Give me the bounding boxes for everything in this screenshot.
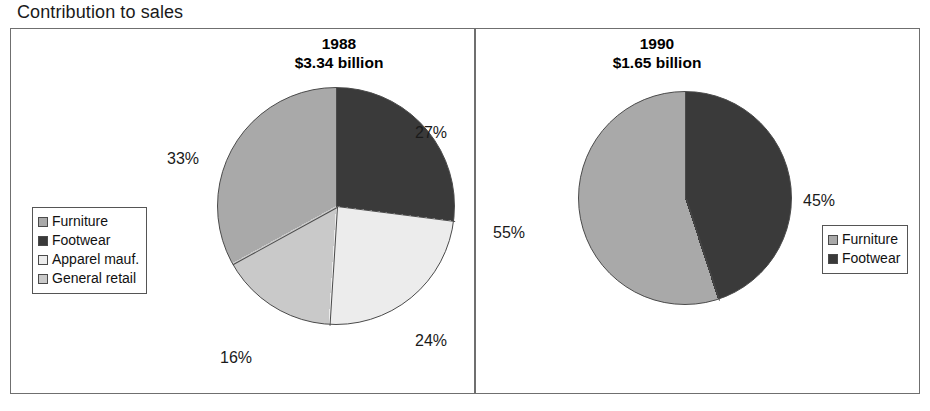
- legend-item[interactable]: Footwear: [38, 231, 139, 250]
- legend-swatch-icon: [38, 255, 48, 265]
- legend-item-label: Footwear: [52, 231, 110, 250]
- pie-slice-divider: [686, 199, 720, 301]
- chart-frame: 1988 $3.34 billion 27% 24% 16% 33% Furni…: [10, 28, 920, 394]
- legend-item[interactable]: Footwear: [828, 249, 900, 268]
- legend-swatch-icon: [828, 254, 838, 264]
- pie-value-1990: $1.65 billion: [557, 53, 757, 72]
- pie-label-footwear-1990: 45%: [803, 192, 835, 210]
- pie-label-general-retail-1988: 16%: [220, 349, 252, 367]
- legend-item[interactable]: General retail: [38, 269, 139, 288]
- legend-item-label: Furniture: [842, 230, 898, 249]
- legend-swatch-icon: [38, 217, 48, 227]
- legend-item[interactable]: Apparel mauf.: [38, 250, 139, 269]
- pie-heading-1990: 1990 $1.65 billion: [557, 34, 757, 72]
- legend-item[interactable]: Furniture: [828, 230, 900, 249]
- pie-year-1988: 1988: [249, 34, 429, 53]
- legend-1988: Furniture Footwear Apparel mauf. General…: [32, 207, 147, 294]
- legend-item-label: Footwear: [842, 249, 900, 268]
- pie-slice-divider: [336, 88, 337, 207]
- legend-item-label: Furniture: [52, 212, 108, 231]
- pie-heading-1988: 1988 $3.34 billion: [249, 34, 429, 72]
- pie-chart-1988: [217, 87, 455, 325]
- legend-swatch-icon: [828, 235, 838, 245]
- legend-1990: Furniture Footwear: [822, 225, 908, 274]
- pie-label-furniture-1988: 33%: [167, 150, 199, 168]
- legend-item-label: General retail: [52, 269, 136, 288]
- pie-slice-divider: [233, 207, 338, 265]
- pie-slice-divider: [685, 92, 686, 199]
- pie-slice-divider: [330, 207, 339, 326]
- pie-value-1988: $3.34 billion: [249, 53, 429, 72]
- pie-slice-divider: [337, 206, 455, 222]
- legend-swatch-icon: [38, 236, 48, 246]
- chart-panel-1990: 1990 $1.65 billion 45% 55% Furniture Foo…: [475, 29, 919, 393]
- legend-item-label: Apparel mauf.: [52, 250, 139, 269]
- pie-chart-1990: [578, 91, 792, 305]
- legend-item[interactable]: Furniture: [38, 212, 139, 231]
- pie-year-1990: 1990: [557, 34, 757, 53]
- pie-label-apparel-1988: 24%: [415, 332, 447, 350]
- pie-label-furniture-1990: 55%: [493, 224, 525, 242]
- chart-panel-1988: 1988 $3.34 billion 27% 24% 16% 33% Furni…: [11, 29, 474, 393]
- legend-swatch-icon: [38, 274, 48, 284]
- pie-label-footwear-1988: 27%: [415, 124, 447, 142]
- page-title: Contribution to sales: [17, 2, 183, 23]
